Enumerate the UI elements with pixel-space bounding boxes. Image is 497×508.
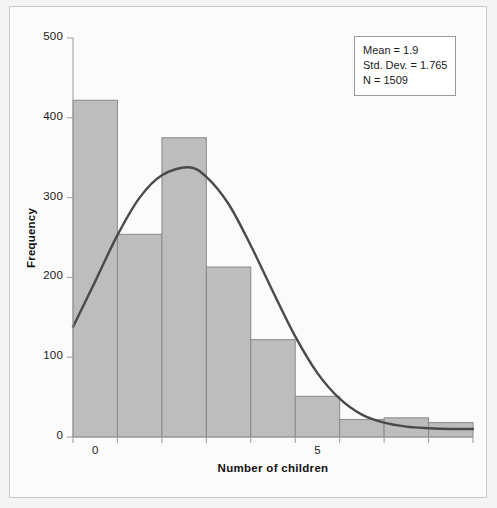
y-axis-title: Frequency [25, 193, 37, 283]
y-tick-label: 100 [23, 349, 63, 361]
x-axis-title: Number of children [73, 462, 473, 474]
legend-mean: Mean = 1.9 [363, 43, 447, 58]
y-tick-marks [67, 38, 73, 437]
legend-n: N = 1509 [363, 73, 447, 88]
histogram-figure: 0100200300400500 05 Frequency Number of … [0, 0, 497, 508]
histogram-bar [117, 234, 161, 437]
legend-std-dev: Std. Dev. = 1.765 [363, 58, 447, 73]
histogram-bar [295, 396, 339, 437]
x-tick-marks [73, 437, 473, 443]
x-tick-label: 5 [297, 444, 337, 456]
y-tick-label: 400 [23, 110, 63, 122]
histogram-bar [340, 419, 384, 437]
histogram-bar [251, 340, 295, 437]
y-tick-label: 0 [23, 429, 63, 441]
histogram-bar [162, 138, 206, 437]
histogram-bar [73, 100, 117, 437]
statistics-legend: Mean = 1.9 Std. Dev. = 1.765 N = 1509 [354, 36, 456, 96]
x-tick-label: 0 [75, 444, 115, 456]
y-tick-label: 500 [23, 30, 63, 42]
bars-group [73, 100, 473, 437]
histogram-bar [206, 267, 250, 437]
